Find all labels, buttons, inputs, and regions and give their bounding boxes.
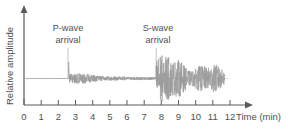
x-tick-label: 11 <box>208 111 218 122</box>
x-axis-tick-labels: 0 1 2 3 4 5 6 7 8 9 10 11 12 <box>21 111 235 122</box>
seismogram-chart: Relative amplitude 0 1 <box>0 0 288 135</box>
x-tick-label: 8 <box>159 111 164 122</box>
x-tick-label: 12 <box>225 111 236 122</box>
p-wave-label-line2: arrival <box>55 35 80 45</box>
x-tick-label: 1 <box>39 111 44 122</box>
seismogram-trace <box>24 56 225 101</box>
x-tick-label: 3 <box>73 111 78 122</box>
s-wave-annotation: S-wave arrival <box>143 23 174 45</box>
y-axis-title: Relative amplitude <box>4 27 15 105</box>
x-axis-ticks <box>24 99 230 105</box>
p-wave-annotation: P-wave arrival <box>53 23 84 45</box>
arrow-right-icon <box>245 102 253 109</box>
s-wave-label-line1: S-wave <box>143 23 174 33</box>
s-wave-label-line2: arrival <box>145 35 170 45</box>
arrow-up-icon <box>21 5 28 13</box>
x-tick-label: 10 <box>190 111 201 122</box>
x-axis-title: Time (min) <box>236 111 281 122</box>
x-tick-label: 6 <box>124 111 129 122</box>
seismogram-figure: Relative amplitude 0 1 <box>0 0 288 135</box>
x-tick-label: 0 <box>21 111 26 122</box>
x-tick-label: 5 <box>107 111 112 122</box>
x-tick-label: 7 <box>142 111 147 122</box>
x-tick-label: 2 <box>56 111 61 122</box>
x-tick-label: 9 <box>176 111 181 122</box>
x-tick-label: 4 <box>90 111 95 122</box>
p-wave-label-line1: P-wave <box>53 23 84 33</box>
